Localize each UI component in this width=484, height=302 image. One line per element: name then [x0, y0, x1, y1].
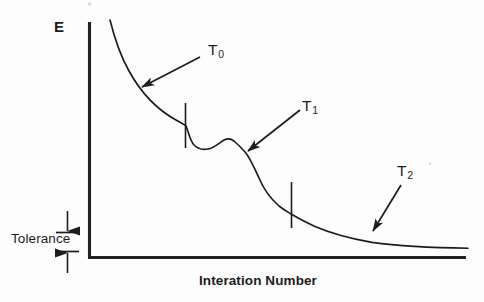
- t0-arrow: [142, 57, 200, 87]
- tolerance-label: Tolerance: [11, 232, 70, 246]
- figure-canvas: E Interation Number Tolerance T0 T1 T2: [0, 0, 484, 302]
- axes-group: [88, 22, 466, 258]
- t0-label-subscript: 0: [218, 48, 224, 60]
- t1-label-subscript: 1: [312, 104, 318, 116]
- t1-label: T1: [302, 98, 318, 114]
- t2-label: T2: [397, 163, 413, 179]
- convergence-diagram: [0, 0, 484, 302]
- t1-arrow: [248, 110, 300, 151]
- t2-label-base: T: [397, 162, 407, 179]
- energy-curve-group: [110, 20, 468, 248]
- scan-artifact: [88, 2, 91, 6]
- t2-arrow: [373, 185, 401, 231]
- t1-label-base: T: [302, 97, 312, 114]
- t2-label-subscript: 2: [407, 169, 413, 181]
- y-axis-label: E: [54, 19, 64, 34]
- t0-label-base: T: [208, 41, 218, 58]
- stage-ticks-group: [186, 103, 292, 228]
- scan-artifact: [429, 162, 431, 165]
- x-axis-label: Interation Number: [199, 274, 317, 288]
- annotation-arrows-group: [142, 57, 401, 231]
- t0-label: T0: [208, 42, 224, 58]
- energy-curve: [110, 20, 468, 248]
